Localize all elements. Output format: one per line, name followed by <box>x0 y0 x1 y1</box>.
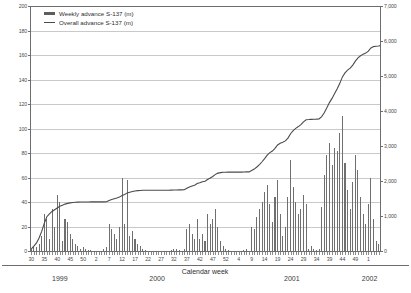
x-axis-tick <box>109 252 110 255</box>
x-axis-tick <box>363 252 364 255</box>
x-axis-tick <box>265 252 266 255</box>
x-axis-tick <box>311 252 312 255</box>
x-axis-tick <box>104 252 105 255</box>
x-axis-tick <box>164 252 165 255</box>
y-axis-left-tick-label: 40 <box>2 199 27 205</box>
y-axis-left-tick <box>28 31 30 32</box>
x-axis-tick <box>49 252 50 255</box>
x-axis-tick <box>106 252 107 255</box>
x-axis-tick <box>257 252 258 255</box>
x-axis-tick <box>231 252 232 255</box>
x-axis-tick <box>114 252 115 255</box>
y-axis-right-tick-label: 4,000 <box>384 108 396 114</box>
x-axis-tick <box>156 252 157 255</box>
x-axis-tick <box>272 252 273 255</box>
x-axis-tick <box>252 252 253 255</box>
x-axis-tick <box>270 252 271 255</box>
x-axis-tick <box>195 252 196 255</box>
x-axis-tick <box>135 252 136 255</box>
x-axis-tick <box>244 252 245 255</box>
y-axis-left-tick <box>28 227 30 228</box>
x-axis-tick <box>189 252 190 255</box>
x-axis-tick <box>86 252 87 255</box>
year-band-label: 1999 <box>40 275 80 282</box>
year-band-label: 2001 <box>272 275 312 282</box>
x-axis-tick <box>376 252 377 255</box>
x-axis-tick <box>288 252 289 255</box>
x-axis-tick <box>221 252 222 255</box>
x-axis-tick <box>88 252 89 255</box>
x-axis-tick <box>319 252 320 255</box>
chart-root: Weekly advance S-137 (m) Overall advance… <box>0 0 411 293</box>
x-axis-tick <box>39 252 40 255</box>
y-axis-right-tick <box>381 181 383 182</box>
x-axis-tick <box>241 252 242 255</box>
x-axis-tick <box>379 252 380 255</box>
x-axis-tick <box>132 252 133 255</box>
x-axis-tick <box>158 252 159 255</box>
y-axis-left-tick-label: 180 <box>2 28 27 34</box>
x-axis-tick <box>174 252 175 255</box>
x-axis-tick <box>200 252 201 255</box>
y-axis-left-tick-label: 140 <box>2 77 27 83</box>
x-axis-tick <box>57 252 58 255</box>
x-axis-tick <box>296 252 297 255</box>
x-axis-tick <box>60 252 61 255</box>
x-axis-tick <box>182 252 183 255</box>
y-axis-left-tick <box>28 251 30 252</box>
x-axis-tick <box>96 252 97 255</box>
x-axis-tick <box>70 252 71 255</box>
y-axis-right-tick-label: 7,000 <box>384 3 396 9</box>
y-axis-left-tick <box>28 202 30 203</box>
y-axis-right-tick <box>381 76 383 77</box>
x-axis-tick <box>101 252 102 255</box>
x-axis-tick <box>239 252 240 255</box>
x-axis-tick <box>62 252 63 255</box>
y-axis-left-tick-label: 120 <box>2 101 27 107</box>
x-axis-tick <box>291 252 292 255</box>
x-axis-tick <box>280 252 281 255</box>
x-axis-tick <box>197 252 198 255</box>
x-axis-tick <box>140 252 141 255</box>
x-axis-tick <box>171 252 172 255</box>
x-axis-tick <box>166 252 167 255</box>
y-axis-left-tick <box>28 6 30 7</box>
y-axis-left-tick-label: 160 <box>2 52 27 58</box>
x-axis-tick <box>148 252 149 255</box>
x-axis-title: Calendar week <box>155 268 255 275</box>
x-axis-tick <box>322 252 323 255</box>
x-axis-tick <box>187 252 188 255</box>
x-axis-tick <box>298 252 299 255</box>
x-axis-tick <box>36 252 37 255</box>
y-axis-left-tick-label: 0 <box>2 248 27 254</box>
x-axis-tick <box>130 252 131 255</box>
x-axis-tick <box>153 252 154 255</box>
x-axis-tick <box>327 252 328 255</box>
x-axis-tick <box>254 252 255 255</box>
x-axis-tick <box>353 252 354 255</box>
x-axis-tick <box>371 252 372 255</box>
y-axis-right-tick <box>381 216 383 217</box>
x-axis-tick <box>68 252 69 255</box>
x-axis-tick <box>329 252 330 255</box>
x-axis-tick <box>65 252 66 255</box>
x-axis-tick <box>75 252 76 255</box>
x-axis-tick <box>208 252 209 255</box>
x-axis-tick <box>345 252 346 255</box>
x-axis-tick <box>145 252 146 255</box>
y-axis-right-tick-label: 5,000 <box>384 73 396 79</box>
y-axis-left-line <box>30 6 31 252</box>
x-axis-tick <box>83 252 84 255</box>
y-axis-right-tick-label: 6,000 <box>384 38 396 44</box>
x-axis-tick <box>226 252 227 255</box>
x-axis-tick <box>246 252 247 255</box>
x-axis-tick <box>205 252 206 255</box>
x-axis-tick <box>228 252 229 255</box>
plot-top-border <box>30 6 381 7</box>
x-axis-tick <box>293 252 294 255</box>
x-axis-tick <box>335 252 336 255</box>
overall-advance-line <box>30 6 380 251</box>
y-axis-left-tick-label: 200 <box>2 3 27 9</box>
x-axis-tick <box>112 252 113 255</box>
x-axis-tick <box>210 252 211 255</box>
